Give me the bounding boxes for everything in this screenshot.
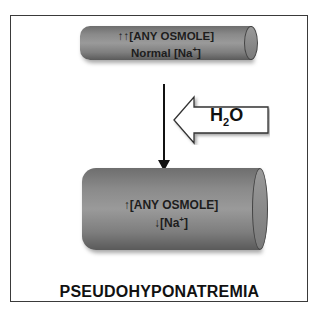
top-cylinder-line1: ↑↑[ANY OSMOLE] bbox=[80, 30, 252, 42]
flow-arrow-line bbox=[163, 84, 165, 164]
bottom-cylinder-line2: ↓[Na+] bbox=[82, 215, 260, 230]
bottom-cylinder-line1: ↑[ANY OSMOLE] bbox=[82, 198, 260, 212]
water-label: H2O bbox=[210, 105, 243, 128]
top-cylinder: ↑↑[ANY OSMOLE] Normal [Na+] bbox=[80, 26, 258, 60]
top-cylinder-line2: Normal [Na+] bbox=[80, 45, 252, 59]
diagram-title: PSEUDOHYPONATREMIA bbox=[0, 283, 319, 301]
bottom-cylinder: ↑[ANY OSMOLE] ↓[Na+] bbox=[82, 168, 268, 250]
